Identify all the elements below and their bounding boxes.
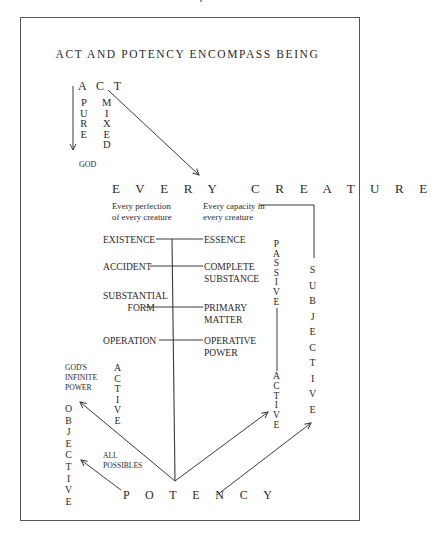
act-to-creature-arrow — [108, 90, 199, 175]
right-active-column: A C T I V E — [273, 372, 280, 431]
accident-label: ACCIDENT — [103, 261, 152, 273]
every-creature-label: E V E R Y C R E A T U R E — [112, 182, 432, 195]
primary-matter-label: PRIMARY MATTER — [204, 302, 247, 326]
mixed-column: M I X E D — [102, 98, 111, 151]
existence-label: EXISTENCE — [103, 234, 155, 246]
gods-infinite-power-label: GOD'S INFINITE POWER — [65, 363, 97, 393]
perfection-caption: Every perfection of every creature — [112, 201, 172, 223]
god-label: GOD — [79, 161, 96, 169]
potency-label: P O T E N C Y — [123, 489, 278, 501]
central-line — [172, 239, 175, 481]
all-possibles-label: ALL POSSIBLES — [103, 451, 142, 471]
act-label: A C T — [78, 80, 125, 92]
operation-label: OPERATION — [103, 335, 156, 347]
left-active-column: A C T I V E — [114, 363, 121, 427]
objective-column: O B J E C T I V E — [65, 403, 72, 507]
diagram-title: ACT AND POTENCY ENCOMPASS BEING — [0, 49, 375, 61]
substantial-form-label: SUBSTANTIAL FORM — [103, 290, 168, 314]
operative-power-label: OPERATIVE POWER — [204, 335, 256, 359]
capacity-caption: Every capacity in every creature — [203, 201, 265, 223]
essence-label: ESSENCE — [204, 234, 246, 246]
passive-column: P A S S I V E — [273, 240, 280, 307]
potency-to-subjective-arrow — [217, 423, 311, 495]
subjective-column: S U B J E C T I V E — [309, 262, 316, 417]
complete-substance-label: COMPLETE SUBSTANCE — [204, 261, 259, 285]
potency-to-active-arrow — [175, 412, 268, 481]
pure-column: P U R E — [80, 98, 88, 140]
